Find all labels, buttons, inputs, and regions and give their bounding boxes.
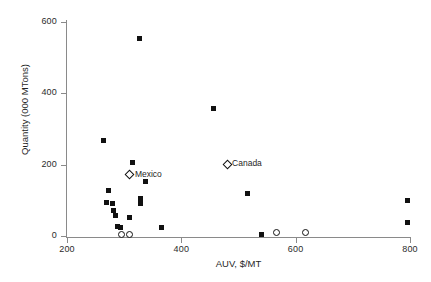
data-point-square [113,213,118,218]
x-tick-label: 600 [276,244,316,254]
data-point-square [211,106,216,111]
data-point-square [159,225,164,230]
data-point-square [259,232,264,237]
x-tick-mark [296,238,297,243]
data-point-square [137,36,142,41]
y-tick-label: 600 [23,16,57,26]
x-axis-line [66,237,411,238]
y-tick-mark [61,236,66,237]
data-point-square [106,188,111,193]
data-point-square [245,191,250,196]
data-point-label: Canada [232,158,262,168]
x-tick-label: 200 [47,244,87,254]
data-point-square [101,138,106,143]
data-point-circle [126,231,133,238]
x-tick-mark [410,238,411,243]
y-axis-title: Quantity (000 MTons) [19,30,30,190]
data-point-square [138,201,143,206]
x-tick-label: 800 [390,244,430,254]
x-tick-mark [181,238,182,243]
y-tick-mark [61,93,66,94]
data-point-square [405,198,410,203]
x-axis-title: AUV, $/MT [66,258,411,269]
data-point-circle [118,231,125,238]
data-point-square [143,179,148,184]
data-point-square [405,220,410,225]
y-tick-mark [61,22,66,23]
x-tick-mark [67,238,68,243]
data-point-square [127,215,132,220]
plot-area [67,22,410,236]
data-point-square [138,196,143,201]
y-tick-label: 0 [23,230,57,240]
data-point-square [118,225,123,230]
scatter-chart: 0200400600 200400600800 Quantity (000 MT… [0,0,431,282]
x-tick-label: 400 [161,244,201,254]
data-point-label: Mexico [135,169,162,179]
y-tick-mark [61,165,66,166]
data-point-square [110,201,115,206]
data-point-square [104,200,109,205]
data-point-square [130,160,135,165]
